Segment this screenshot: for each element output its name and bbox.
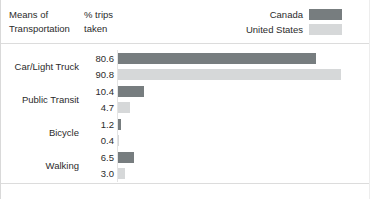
bar-bicycle-united-states xyxy=(118,135,119,146)
legend-item-united-states: United States xyxy=(192,23,342,37)
category-label-walking: Walking xyxy=(1,149,79,182)
bar-value-public-transit-united-states: 4.7 xyxy=(79,101,114,114)
chart-header: Means of Transportation % trips taken Ca… xyxy=(1,0,370,43)
header-divider xyxy=(1,43,370,44)
bar-value-walking-canada: 6.5 xyxy=(79,151,114,164)
bar-row-public-transit-canada: 10.4 xyxy=(79,86,370,97)
legend-label-united-states: United States xyxy=(246,23,303,37)
column-header-category: Means of Transportation xyxy=(9,8,70,35)
bar-row-car-light-truck-united-states: 90.8 xyxy=(79,69,370,80)
category-label-car-light-truck: Car/Light Truck xyxy=(1,50,79,83)
chart-legend: Canada United States xyxy=(192,8,342,37)
bar-group-bicycle: Bicycle 1.2 0.4 xyxy=(1,116,370,149)
transportation-bar-chart: Means of Transportation % trips taken Ca… xyxy=(0,0,370,199)
bar-value-bicycle-canada: 1.2 xyxy=(79,118,114,131)
chart-plot-area: Car/Light Truck 80.6 90.8 Public Transit… xyxy=(1,50,370,182)
footer-divider xyxy=(1,183,370,184)
bar-public-transit-united-states xyxy=(118,102,130,113)
bar-row-bicycle-canada: 1.2 xyxy=(79,119,370,130)
bar-row-walking-united-states: 3.0 xyxy=(79,168,370,179)
bar-value-bicycle-united-states: 0.4 xyxy=(79,134,114,147)
bar-car-light-truck-canada xyxy=(118,53,316,64)
bar-row-car-light-truck-canada: 80.6 xyxy=(79,53,370,64)
legend-swatch-united-states-icon xyxy=(309,24,342,35)
bar-value-public-transit-canada: 10.4 xyxy=(79,85,114,98)
bar-row-walking-canada: 6.5 xyxy=(79,152,370,163)
column-header-value: % trips taken xyxy=(84,8,113,35)
bar-group-car-light-truck: Car/Light Truck 80.6 90.8 xyxy=(1,50,370,83)
bar-car-light-truck-united-states xyxy=(118,69,341,80)
bar-public-transit-canada xyxy=(118,86,144,97)
bar-value-walking-united-states: 3.0 xyxy=(79,167,114,180)
bar-group-walking: Walking 6.5 3.0 xyxy=(1,149,370,182)
bar-walking-united-states xyxy=(118,168,125,179)
legend-label-canada: Canada xyxy=(270,8,303,22)
bar-walking-canada xyxy=(118,152,134,163)
bar-bicycle-canada xyxy=(118,119,121,130)
category-label-public-transit: Public Transit xyxy=(1,83,79,116)
category-label-bicycle: Bicycle xyxy=(1,116,79,149)
bar-row-public-transit-united-states: 4.7 xyxy=(79,102,370,113)
legend-item-canada: Canada xyxy=(192,8,342,22)
bar-value-car-light-truck-canada: 80.6 xyxy=(79,52,114,65)
legend-swatch-canada-icon xyxy=(309,9,342,20)
bar-value-car-light-truck-united-states: 90.8 xyxy=(79,68,114,81)
bar-group-public-transit: Public Transit 10.4 4.7 xyxy=(1,83,370,116)
bar-row-bicycle-united-states: 0.4 xyxy=(79,135,370,146)
